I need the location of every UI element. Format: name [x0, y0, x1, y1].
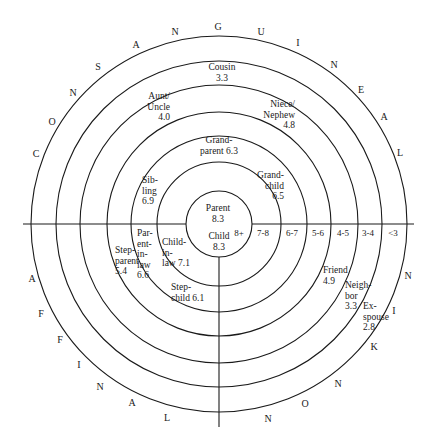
relation-label-line: 4.0 [158, 112, 170, 122]
relation-label-line: law 7.1 [162, 258, 190, 268]
relation-grandchild: Grand-child6.5 [257, 170, 284, 201]
relation-label-line: spouse [363, 312, 389, 322]
category-letter: N [171, 26, 178, 37]
relation-stepparent: Step-parent5.4 [115, 245, 139, 276]
category-nonkin: NIKNON [264, 270, 411, 424]
score-band-labels: 8+7-86-75-64-53-4<3 [234, 228, 398, 238]
relation-label-line: ling [142, 186, 157, 196]
category-letter: N [264, 413, 271, 424]
relation-label-line: child 6.1 [171, 293, 204, 303]
category-letter: U [257, 26, 265, 37]
relation-label-line: Aunt/ [148, 91, 170, 101]
category-letter: N [69, 87, 76, 98]
relation-stepchild: Step-child 6.1 [171, 282, 204, 303]
relation-aunt-uncle: Aunt/Uncle4.0 [147, 91, 170, 122]
category-letter: L [397, 147, 403, 158]
category-letter: I [296, 37, 299, 48]
relation-label-line: Niece/ [270, 99, 295, 109]
relation-label-line: Neigh- [345, 280, 371, 290]
relation-label-line: Uncle [147, 102, 170, 112]
relation-label-line: Child [208, 231, 229, 241]
score-band-label: 3-4 [362, 228, 374, 238]
category-letter: G [214, 21, 221, 32]
relation-label-line: 4.8 [283, 120, 295, 130]
score-band-label: 8+ [234, 228, 244, 238]
category-letter: A [28, 273, 36, 284]
category-letter: N [404, 270, 411, 281]
relation-label-line: 4.9 [323, 276, 335, 286]
relation-label-line: 8.3 [213, 242, 225, 252]
category-letter: E [358, 84, 364, 95]
relation-niece-nephew: Niece/Nephew4.8 [263, 99, 295, 130]
relation-label-line: 5.4 [115, 266, 127, 276]
category-letter: O [48, 116, 55, 127]
category-letter: F [38, 308, 44, 319]
category-letter: A [128, 397, 136, 408]
axes [23, 224, 414, 427]
category-letter: A [132, 39, 140, 50]
relation-labels: Parent8.3Child8.3Grand-parent 6.3Grand-c… [115, 62, 389, 332]
relation-label-line: law [137, 260, 151, 270]
kinship-circle-diagram: CONSANGUINEALAFFINALNIKNON 8+7-86-75-64-… [0, 0, 431, 444]
relation-label-line: parent [115, 256, 139, 266]
relation-label-line: Step- [171, 282, 191, 292]
relation-label-line: Step- [115, 245, 135, 255]
relation-label-line: 3.3 [345, 301, 357, 311]
relation-label-line: Sib- [142, 175, 158, 185]
score-band-label: 6-7 [286, 228, 298, 238]
relation-label-line: 6.5 [272, 191, 284, 201]
relation-label-line: Ex- [363, 301, 377, 311]
relation-sibling: Sib-ling6.9 [142, 175, 158, 206]
relation-parent-in-law: Par-ent-in-law6.6 [137, 228, 153, 280]
relation-label-line: Grand- [257, 170, 284, 180]
category-letter: S [95, 61, 101, 72]
category-letter: O [301, 398, 308, 409]
relation-label-line: Child- [162, 237, 186, 247]
category-letter: L [164, 412, 170, 423]
relation-label-line: 8.3 [212, 214, 224, 224]
relation-label-line: Par- [137, 228, 153, 238]
relation-grandparent: Grand-parent 6.3 [200, 135, 238, 156]
relation-parent: Parent8.3 [206, 203, 231, 224]
relation-label-line: Nephew [263, 110, 295, 120]
category-letter: K [370, 341, 378, 352]
relation-label-line: in- [162, 248, 173, 258]
category-letter: N [96, 381, 103, 392]
score-band-label: 4-5 [337, 228, 349, 238]
relation-label-line: Cousin [209, 62, 236, 72]
category-letter: A [380, 111, 388, 122]
relation-label-line: 6.6 [137, 270, 149, 280]
relation-label-line: Parent [206, 203, 231, 213]
relation-cousin: Cousin3.3 [209, 62, 236, 83]
relation-label-line: Friend [323, 265, 348, 275]
category-letter: N [334, 378, 341, 389]
relation-label-line: 2.8 [363, 322, 375, 332]
relation-label-line: parent 6.3 [200, 146, 238, 156]
category-letter: F [57, 334, 63, 345]
category-letter: C [33, 148, 40, 159]
score-band-label: 5-6 [312, 228, 324, 238]
score-band-label: 7-8 [257, 228, 269, 238]
relation-label-line: Grand- [206, 135, 233, 145]
relation-label-line: child [265, 181, 284, 191]
relation-label-line: bor [345, 291, 359, 301]
relation-label-line: 3.3 [216, 73, 228, 83]
relation-label-line: 6.9 [142, 196, 154, 206]
score-band-label: <3 [388, 228, 398, 238]
category-letter: I [77, 359, 80, 370]
category-letter: I [392, 305, 395, 316]
relation-child: Child8.3 [208, 231, 229, 252]
relation-child-in-law: Child-in-law 7.1 [162, 237, 190, 268]
category-letter: N [330, 59, 337, 70]
relation-label-line: ent- [137, 239, 152, 249]
